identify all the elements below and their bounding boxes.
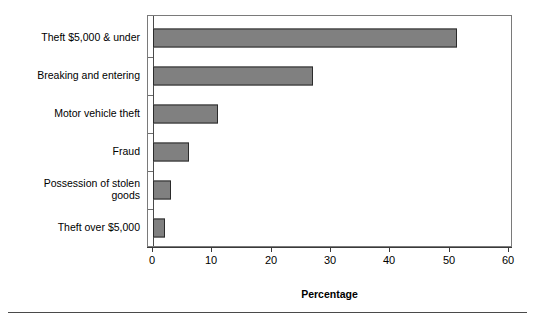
category-label-theft-over-5000: Theft over $5,000 — [0, 221, 140, 233]
x-tick-30 — [330, 247, 331, 252]
bar-fraud — [153, 143, 189, 162]
footer-divider — [8, 312, 527, 313]
x-tick-40 — [389, 247, 390, 252]
plot-area — [147, 15, 512, 247]
category-label-theft-5000-and-under: Theft $5,000 & under — [0, 31, 140, 43]
x-tick-10 — [211, 247, 212, 252]
category-label-fraud: Fraud — [0, 145, 140, 157]
bar-breaking-and-entering — [153, 67, 313, 86]
x-tick-label-30: 30 — [324, 254, 336, 266]
x-tick-label-40: 40 — [383, 254, 395, 266]
x-tick-label-60: 60 — [502, 254, 514, 266]
bar-chart-figure: Theft $5,000 & under Breaking and enteri… — [0, 0, 535, 324]
category-label-possession-of-stolen-goods: Possession of stolen goods — [0, 177, 140, 201]
category-label-motor-vehicle-theft: Motor vehicle theft — [0, 107, 140, 119]
x-tick-label-50: 50 — [443, 254, 455, 266]
category-label-breaking-and-entering: Breaking and entering — [0, 69, 140, 81]
x-tick-label-20: 20 — [265, 254, 277, 266]
x-tick-label-0: 0 — [149, 254, 155, 266]
bar-possession-of-stolen-goods — [153, 181, 171, 200]
x-tick-60 — [508, 247, 509, 252]
x-axis-tick-labels: 0 10 20 30 40 50 60 — [147, 254, 512, 270]
bar-motor-vehicle-theft — [153, 105, 218, 124]
x-tick-50 — [449, 247, 450, 252]
x-axis-ticks — [147, 247, 512, 253]
category-axis-labels: Theft $5,000 & under Breaking and enteri… — [0, 15, 145, 247]
bar-theft-5000-and-under — [153, 29, 457, 48]
bars-layer — [148, 16, 511, 246]
x-tick-0 — [152, 247, 153, 252]
x-tick-20 — [271, 247, 272, 252]
x-tick-label-10: 10 — [205, 254, 217, 266]
x-axis-title: Percentage — [147, 288, 512, 300]
bar-theft-over-5000 — [153, 219, 165, 238]
